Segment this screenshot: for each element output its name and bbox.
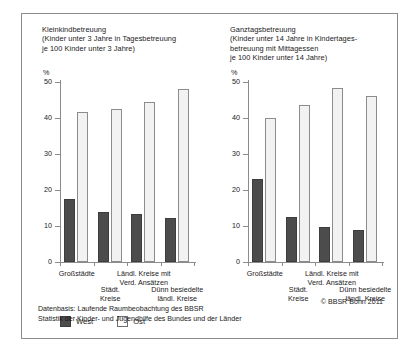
x-axis-tick bbox=[282, 262, 283, 266]
bar-ost-0 bbox=[77, 112, 88, 262]
x-axis-tick bbox=[127, 262, 128, 266]
bar-west-1 bbox=[286, 217, 297, 262]
bar-west-2 bbox=[319, 227, 330, 262]
y-axis-tick bbox=[243, 226, 249, 227]
x-axis-line bbox=[60, 262, 196, 263]
figure-copyright: © BBSR Bonn 2011 bbox=[321, 298, 383, 306]
y-axis-tick-label: 0 bbox=[210, 257, 240, 266]
x-axis-tick bbox=[161, 262, 162, 266]
y-axis-tick-label: 20 bbox=[210, 185, 240, 194]
y-axis-unit: % bbox=[43, 68, 49, 77]
x-axis-category-label: Dünn besiedelte ländl. Kreise bbox=[141, 286, 213, 303]
x-axis-category-label: Städt. Kreise bbox=[275, 286, 321, 303]
x-axis-tick bbox=[349, 262, 350, 266]
y-axis-tick bbox=[243, 190, 249, 191]
y-axis-tick-label: 30 bbox=[22, 149, 52, 158]
bar-ost-3 bbox=[178, 89, 189, 262]
y-axis-tick bbox=[55, 190, 61, 191]
x-axis-category-label: Städt. Kreise bbox=[87, 286, 133, 303]
panel-title: Kleinkindbetreuung (Kinder unter 3 Jahre… bbox=[42, 25, 210, 53]
y-axis-tick-label: 40 bbox=[22, 113, 52, 122]
plot-area bbox=[248, 82, 382, 262]
bar-west-1 bbox=[98, 212, 109, 262]
y-axis-unit: % bbox=[231, 68, 237, 77]
x-axis-tick bbox=[60, 262, 61, 266]
bar-west-0 bbox=[64, 199, 75, 262]
plot-area bbox=[60, 82, 194, 262]
y-axis-tick bbox=[55, 226, 61, 227]
chart-panel-kleinkindbetreuung: Kleinkindbetreuung (Kinder unter 3 Jahre… bbox=[22, 14, 210, 306]
bar-ost-2 bbox=[332, 88, 343, 262]
y-axis-tick bbox=[243, 154, 249, 155]
bar-west-0 bbox=[252, 179, 263, 262]
x-axis-tick bbox=[248, 262, 249, 266]
bar-ost-2 bbox=[144, 102, 155, 262]
bar-ost-0 bbox=[265, 118, 276, 262]
x-axis-tick bbox=[194, 262, 195, 266]
bar-ost-1 bbox=[299, 105, 310, 262]
chart-panel-ganztagsbetreuung: Ganztagsbetreuung (Kinder unter 14 Jahre… bbox=[210, 14, 398, 306]
x-axis-category-label: Großstädte bbox=[48, 270, 106, 279]
y-axis-tick-label: 50 bbox=[210, 77, 240, 86]
y-axis-tick-label: 20 bbox=[22, 185, 52, 194]
bar-ost-1 bbox=[111, 109, 122, 262]
bar-west-2 bbox=[131, 214, 142, 262]
y-axis-tick bbox=[55, 82, 61, 83]
bar-ost-3 bbox=[366, 96, 377, 262]
x-axis-tick bbox=[382, 262, 383, 266]
y-axis-tick bbox=[55, 154, 61, 155]
y-axis-tick bbox=[55, 118, 61, 119]
y-axis-tick-label: 10 bbox=[210, 221, 240, 230]
x-axis-tick bbox=[94, 262, 95, 266]
x-axis-tick bbox=[315, 262, 316, 266]
y-axis-tick-label: 50 bbox=[22, 77, 52, 86]
panel-title: Ganztagsbetreuung (Kinder unter 14 Jahre… bbox=[230, 25, 398, 62]
bar-west-3 bbox=[165, 218, 176, 262]
y-axis-tick-label: 0 bbox=[22, 257, 52, 266]
y-axis-tick-label: 10 bbox=[22, 221, 52, 230]
x-axis-line bbox=[248, 262, 384, 263]
bar-west-3 bbox=[353, 230, 364, 262]
y-axis-tick-label: 30 bbox=[210, 149, 240, 158]
figure-footnote: Datenbasis: Laufende Raumbeobachtung des… bbox=[38, 305, 242, 324]
y-axis-tick-label: 40 bbox=[210, 113, 240, 122]
y-axis-tick bbox=[243, 82, 249, 83]
chart-figure: Kleinkindbetreuung (Kinder unter 3 Jahre… bbox=[21, 13, 398, 339]
y-axis-tick bbox=[243, 118, 249, 119]
x-axis-category-label: Großstädte bbox=[236, 270, 294, 279]
